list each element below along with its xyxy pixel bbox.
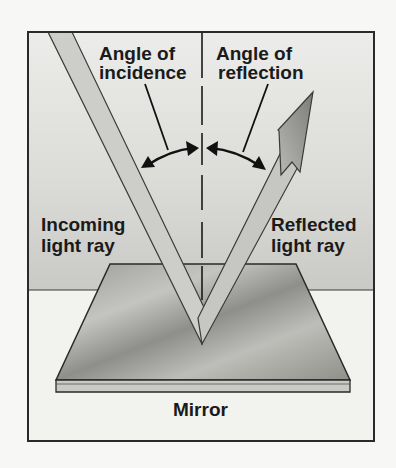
mirror-edge bbox=[56, 380, 350, 392]
angle-incidence-label-1: Angle of bbox=[99, 43, 176, 64]
incoming-ray-label-1: Incoming bbox=[41, 214, 125, 235]
reflected-ray-label-1: Reflected bbox=[271, 214, 357, 235]
reflected-ray-label-2: light ray bbox=[271, 235, 345, 256]
reflection-diagram: Angle of incidence Angle of reflection I… bbox=[0, 0, 396, 468]
angle-incidence-label-2: incidence bbox=[99, 62, 187, 83]
angle-reflection-label-1: Angle of bbox=[216, 43, 293, 64]
incoming-ray-label-2: light ray bbox=[41, 235, 115, 256]
mirror-label: Mirror bbox=[173, 399, 229, 420]
angle-reflection-label-2: reflection bbox=[218, 62, 304, 83]
